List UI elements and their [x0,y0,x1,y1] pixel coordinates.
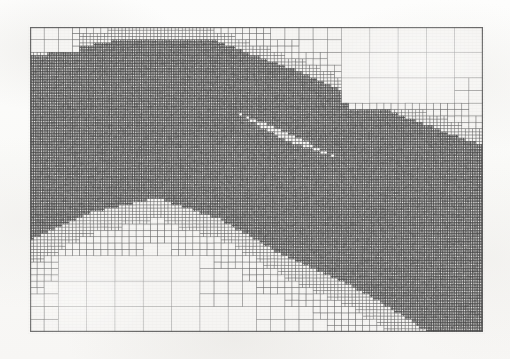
amr-mesh-figure [30,27,483,332]
amr-mesh-canvas [30,27,483,332]
page-bleed-through-artifact [40,334,470,354]
figure-page [0,0,510,359]
